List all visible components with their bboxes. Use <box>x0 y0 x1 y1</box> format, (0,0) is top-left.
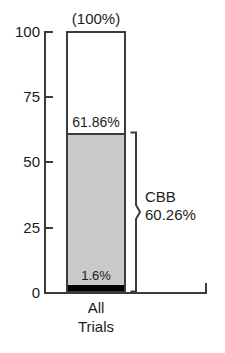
y-tick-label-50-wrap: 50 <box>0 154 40 169</box>
y-tick-label-50: 50 <box>4 154 40 169</box>
cbb-name: CBB <box>145 188 223 206</box>
y-tick-100 <box>46 31 53 33</box>
y-tick-label-75: 75 <box>4 89 40 104</box>
boundary-label: 61.86% <box>68 115 124 129</box>
x-axis-end-tick <box>205 283 207 294</box>
y-tick-25 <box>46 227 53 229</box>
bar-segment-gray <box>68 133 124 287</box>
x-axis-label-line2: Trials <box>56 317 136 336</box>
bar-segment-black <box>68 285 124 291</box>
y-tick-label-25: 25 <box>4 220 40 235</box>
bar-all-trials: 61.86% 1.6% <box>66 31 126 293</box>
x-axis-label-line1: All <box>56 298 136 317</box>
y-tick-label-0: 0 <box>4 285 40 300</box>
total-label: (100%) <box>56 11 136 26</box>
y-tick-label-100: 100 <box>4 24 40 39</box>
y-tick-50 <box>46 161 53 163</box>
y-tick-label-0-wrap: 0 <box>0 285 40 300</box>
y-tick-label-100-wrap: 100 <box>0 24 40 39</box>
y-tick-label-25-wrap: 25 <box>0 220 40 235</box>
cbb-annotation: CBB 60.26% <box>145 188 223 224</box>
cbb-value: 60.26% <box>145 206 223 224</box>
y-tick-label-75-wrap: 75 <box>0 89 40 104</box>
stacked-bar-chart: 100 75 50 25 0 (100%) 61.86% 1.6% CBB 60… <box>0 0 225 353</box>
y-tick-75 <box>46 96 53 98</box>
cbb-brace-icon <box>129 131 141 293</box>
black-segment-label: 1.6% <box>68 269 124 283</box>
x-axis-label: All Trials <box>56 298 136 336</box>
